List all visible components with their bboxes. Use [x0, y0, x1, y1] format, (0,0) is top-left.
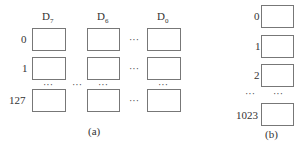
ellipsis: ··· — [273, 89, 283, 99]
column-header-d6: D6 — [97, 10, 108, 27]
ellipsis: ··· — [129, 64, 139, 74]
ellipsis: ··· — [72, 80, 82, 90]
row-label-0: 0 — [254, 10, 260, 22]
column-header-d7: D7 — [42, 10, 53, 27]
memory-cell-r0-d6 — [87, 28, 120, 51]
row-label-1023: 1023 — [236, 109, 258, 121]
memory-cell-1023 — [261, 103, 294, 126]
ellipsis: ··· — [129, 35, 139, 45]
memory-cell-r127-d6 — [87, 89, 120, 112]
memory-cell-r127-d0 — [147, 89, 181, 112]
memory-cell-r1-d6 — [87, 57, 120, 80]
caption-b: (b) — [265, 128, 278, 140]
row-label-127: 127 — [9, 94, 26, 106]
memory-cell-r127-d7 — [32, 89, 66, 112]
memory-cell-1 — [261, 35, 294, 58]
row-label-2: 2 — [254, 69, 260, 81]
memory-cell-2 — [261, 64, 294, 87]
column-header-d0: D0 — [157, 10, 168, 27]
memory-cell-r0-d7 — [32, 28, 66, 51]
ellipsis: ··· — [245, 89, 255, 99]
memory-cell-r1-d7 — [32, 57, 66, 80]
ellipsis: ··· — [129, 96, 139, 106]
caption-a: (a) — [88, 125, 100, 137]
memory-cell-0 — [261, 5, 294, 28]
memory-cell-r0-d0 — [147, 28, 181, 51]
row-label-0: 0 — [21, 33, 27, 45]
memory-cell-r1-d0 — [147, 57, 181, 80]
row-label-1: 1 — [22, 62, 28, 74]
row-label-1: 1 — [255, 40, 261, 52]
